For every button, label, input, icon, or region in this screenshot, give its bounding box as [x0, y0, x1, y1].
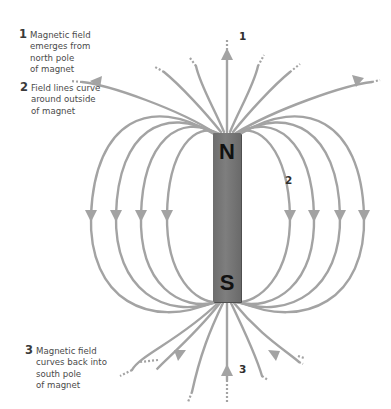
annotation-3: 3 Magnetic field curves back into south …: [36, 346, 107, 391]
annotation-3-number: 3: [25, 345, 33, 356]
annotation-1-number: 1: [19, 29, 27, 40]
annotation-2-text: Field lines curve around outside of magn…: [31, 83, 100, 117]
south-pole-label: S: [213, 270, 241, 296]
annotation-1: 1 Magnetic field emerges from north pole…: [30, 30, 91, 75]
annotation-3-text: Magnetic field curves back into south po…: [36, 346, 107, 391]
annotation-1-text: Magnetic field emerges from north pole o…: [30, 30, 91, 75]
north-pole-label: N: [213, 139, 241, 165]
marker-3: 3: [239, 363, 246, 375]
annotation-2-number: 2: [20, 82, 28, 93]
marker-2: 2: [285, 174, 292, 186]
bar-magnet: N S: [213, 133, 241, 302]
annotation-2: 2 Field lines curve around outside of ma…: [31, 83, 100, 117]
marker-1: 1: [239, 30, 246, 42]
magnet-diagram: N S 1 Magnetic field emerges from north …: [0, 0, 391, 409]
